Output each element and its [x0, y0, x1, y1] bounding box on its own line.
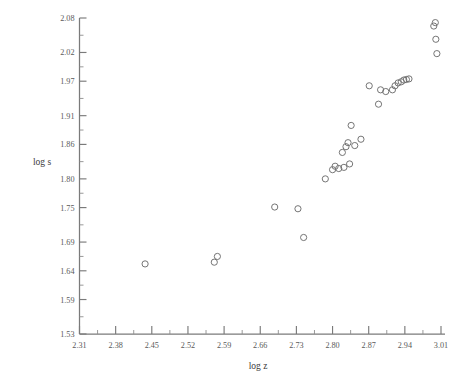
x-tick-label: 2.80 [325, 341, 339, 350]
data-point [301, 234, 307, 240]
data-point [366, 83, 372, 89]
x-tick-label: 2.87 [362, 341, 376, 350]
data-point [375, 101, 381, 107]
data-point [348, 122, 354, 128]
x-tick-label: 2.66 [253, 341, 267, 350]
y-tick-label: 1.64 [60, 267, 74, 276]
data-point [142, 261, 148, 267]
y-axis-title: log s [33, 157, 52, 167]
x-tick-label: 2.31 [72, 341, 86, 350]
y-tick-label: 1.69 [60, 238, 74, 247]
data-point [358, 136, 364, 142]
data-point [322, 176, 328, 182]
data-point [211, 259, 217, 265]
y-tick-label: 2.02 [60, 48, 74, 57]
data-points [142, 20, 440, 268]
data-point [295, 206, 301, 212]
x-tick-label: 2.52 [181, 341, 195, 350]
y-tick-label: 1.59 [60, 296, 74, 305]
x-axis: 2.312.382.452.522.592.662.732.802.872.94… [72, 326, 448, 350]
y-tick-label: 1.80 [60, 175, 74, 184]
data-point [346, 161, 352, 167]
y-tick-label: 1.53 [60, 330, 74, 339]
x-tick-label: 2.38 [108, 341, 122, 350]
data-point [434, 51, 440, 57]
x-tick-label: 2.94 [398, 341, 412, 350]
y-tick-label: 1.75 [60, 204, 74, 213]
data-point [214, 253, 220, 259]
x-axis-title: log z [249, 361, 268, 371]
x-tick-label: 2.73 [289, 341, 303, 350]
x-tick-label: 2.59 [217, 341, 231, 350]
data-point [339, 149, 345, 155]
data-point [433, 36, 439, 42]
scatter-plot: 1.531.591.641.691.751.801.861.911.972.02… [0, 0, 467, 382]
y-tick-label: 2.08 [60, 14, 74, 23]
data-point [272, 204, 278, 210]
y-tick-label: 1.86 [60, 140, 74, 149]
plot-canvas: 1.531.591.641.691.751.801.861.911.972.02… [0, 0, 467, 382]
data-point [352, 142, 358, 148]
y-tick-label: 1.97 [60, 77, 74, 86]
x-tick-label: 2.45 [145, 341, 159, 350]
x-tick-label: 3.01 [434, 341, 448, 350]
y-axis: 1.531.591.641.691.751.801.861.911.972.02… [60, 14, 86, 339]
y-tick-label: 1.91 [60, 112, 74, 121]
